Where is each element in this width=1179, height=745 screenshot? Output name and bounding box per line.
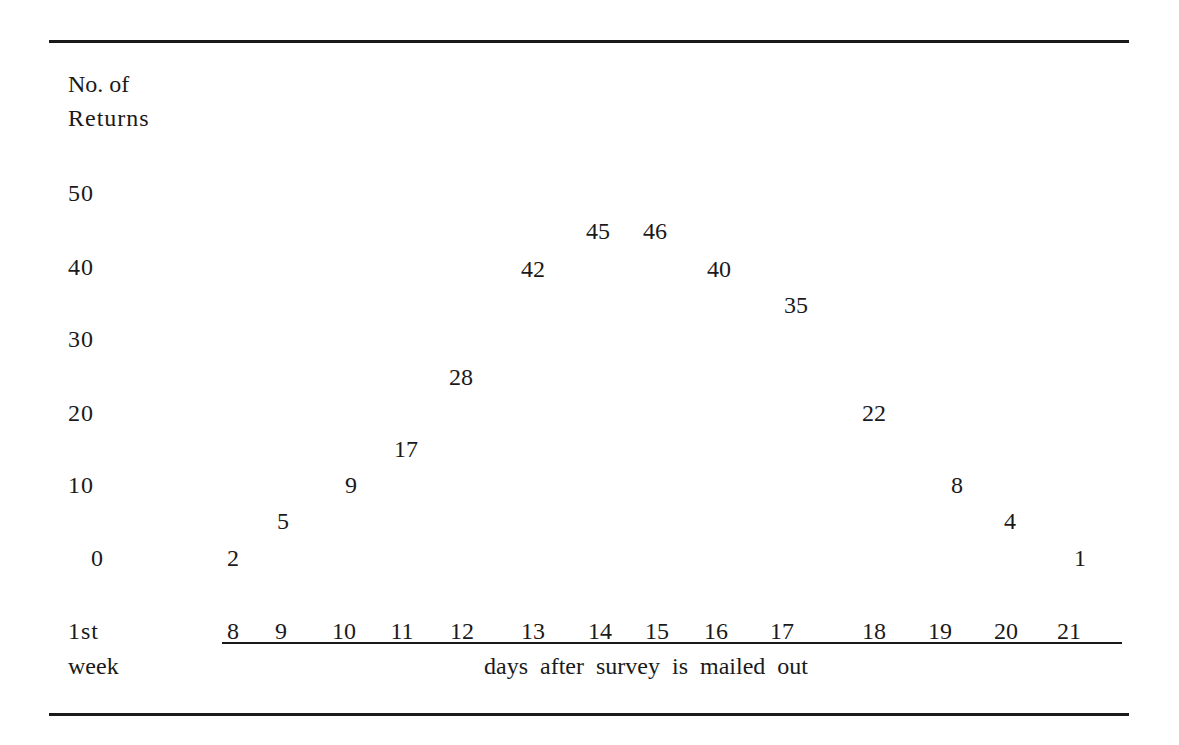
data-point-day-18: 22: [862, 399, 886, 427]
x-tick-21: 21: [1057, 617, 1081, 645]
x-tick-19: 19: [928, 617, 952, 645]
x-tick-10: 10: [332, 617, 356, 645]
data-point-day-10: 9: [345, 471, 357, 499]
data-point-day-11: 17: [394, 435, 418, 463]
x-tick-16: 16: [704, 617, 728, 645]
y-axis-title-line2: Returns: [68, 104, 150, 132]
bottom-rule: [49, 713, 1129, 716]
data-point-day-14: 45: [586, 217, 610, 245]
x-tick-20: 20: [994, 617, 1018, 645]
x-prefix-line2: week: [68, 652, 119, 680]
y-tick-10: 10: [68, 471, 94, 499]
x-tick-13: 13: [521, 617, 545, 645]
top-rule: [49, 40, 1129, 43]
y-tick-40: 40: [68, 253, 94, 281]
data-point-day-13: 42: [521, 255, 545, 283]
data-point-day-20: 4: [1004, 507, 1016, 535]
data-point-day-12: 28: [449, 363, 473, 391]
y-tick-0: 0: [91, 544, 104, 572]
x-tick-12: 12: [450, 617, 474, 645]
x-tick-17: 17: [770, 617, 794, 645]
data-point-day-15: 46: [643, 217, 667, 245]
x-prefix-line1: 1st: [68, 617, 99, 645]
x-tick-18: 18: [862, 617, 886, 645]
data-point-day-8: 2: [227, 544, 239, 572]
data-point-day-19: 8: [951, 471, 963, 499]
x-tick-15: 15: [645, 617, 669, 645]
data-point-day-21: 1: [1074, 544, 1086, 572]
y-axis-title-line1: No. of: [68, 70, 129, 98]
y-tick-30: 30: [68, 325, 94, 353]
data-point-day-9: 5: [277, 507, 289, 535]
x-tick-11: 11: [390, 617, 413, 645]
y-tick-50: 50: [68, 179, 94, 207]
x-tick-9: 9: [275, 617, 287, 645]
x-axis-underline: [222, 642, 1122, 644]
x-axis-caption: days after survey is mailed out: [484, 652, 808, 680]
data-point-day-16: 40: [707, 255, 731, 283]
data-point-day-17: 35: [784, 291, 808, 319]
x-tick-14: 14: [588, 617, 612, 645]
y-tick-20: 20: [68, 399, 94, 427]
x-tick-8: 8: [227, 617, 239, 645]
